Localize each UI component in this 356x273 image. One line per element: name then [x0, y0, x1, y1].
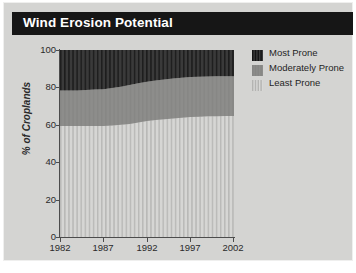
x-tick-label: 1987	[83, 242, 123, 253]
y-tick-mark	[56, 50, 60, 51]
x-tick-label: 1982	[40, 242, 80, 253]
area-band-most-prone	[60, 50, 234, 237]
chart-panel: Wind Erosion Potential	[3, 2, 353, 261]
legend-item-most-prone: Most Prone	[252, 46, 356, 60]
chart-legend: Most Prone Moderately Prone	[252, 46, 356, 91]
y-tick-label: 0	[10, 232, 56, 242]
legend-label-most-prone: Most Prone	[269, 46, 318, 59]
y-tick-label: 100	[10, 45, 56, 55]
chart-title-bar: Wind Erosion Potential	[12, 12, 353, 35]
area-path-most-prone	[60, 50, 234, 91]
y-tick-mark	[56, 87, 60, 88]
y-axis-line	[59, 49, 60, 238]
x-tick-label: 1992	[127, 242, 167, 253]
y-tick-mark	[56, 125, 60, 126]
y-tick-label: 80	[10, 82, 56, 92]
legend-swatch-least-prone-icon	[252, 77, 263, 88]
y-axis-ticks: 100 80 60 40 20 0	[8, 3, 56, 273]
legend-label-moderately-prone: Moderately Prone	[269, 61, 344, 74]
x-tick-label: 1997	[170, 242, 210, 253]
legend-swatch-moderately-prone-icon	[252, 62, 263, 73]
y-tick-label: 60	[10, 120, 56, 130]
x-tick-label: 2002	[213, 242, 253, 253]
y-tick-label: 20	[10, 195, 56, 205]
y-tick-mark	[56, 200, 60, 201]
y-tick-label: 40	[10, 157, 56, 167]
plot-area	[60, 50, 234, 237]
legend-item-moderately-prone: Moderately Prone	[252, 61, 356, 75]
chart-figure: Wind Erosion Potential	[0, 0, 356, 273]
legend-item-least-prone: Least Prone	[252, 76, 356, 90]
y-axis-title: % of Croplands	[21, 69, 32, 169]
legend-label-least-prone: Least Prone	[269, 76, 320, 89]
y-tick-mark	[56, 162, 60, 163]
legend-swatch-most-prone-icon	[252, 47, 263, 58]
